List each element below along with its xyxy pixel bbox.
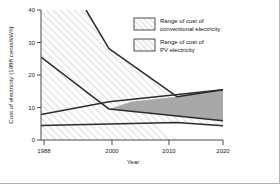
x-tick-marks [44,140,223,145]
chart-legend: Range of cost of conventional electricit… [129,14,239,62]
x-tick-label-1988: 1988 [37,148,51,154]
legend-label-conventional-line2: conventional electricity [160,26,220,32]
y-tick-label-0: 0 [32,137,36,143]
chart-figure: 40 30 20 10 0 1988 2000 2010 2020 Year C… [0,0,280,184]
y-tick-marks [37,10,41,140]
y-tick-label-10: 10 [28,105,35,111]
x-tick-labels: 1988 2000 2010 2020 [37,148,230,154]
y-tick-label-30: 30 [28,40,35,46]
x-tick-label-2010: 2010 [162,148,176,154]
y-tick-labels: 40 30 20 10 0 [28,7,35,143]
legend-label-conventional-line1: Range of cost of [160,18,204,24]
legend-label-pv-line1: Range of cost of [160,39,204,45]
legend-label-pv-line2: PV electricity [160,47,195,53]
x-axis-title: Year [127,158,140,165]
legend-swatch-conventional [134,18,155,30]
x-tick-label-2000: 2000 [105,148,119,154]
legend-swatch-pv [134,39,155,51]
x-tick-label-2020: 2020 [216,148,230,154]
electricity-cost-chart: 40 30 20 10 0 1988 2000 2010 2020 Year C… [0,0,280,184]
y-axis-title: Cost of electricity (1988 cents/kWh) [7,26,14,123]
y-tick-label-40: 40 [28,7,35,13]
y-tick-label-20: 20 [28,72,35,78]
